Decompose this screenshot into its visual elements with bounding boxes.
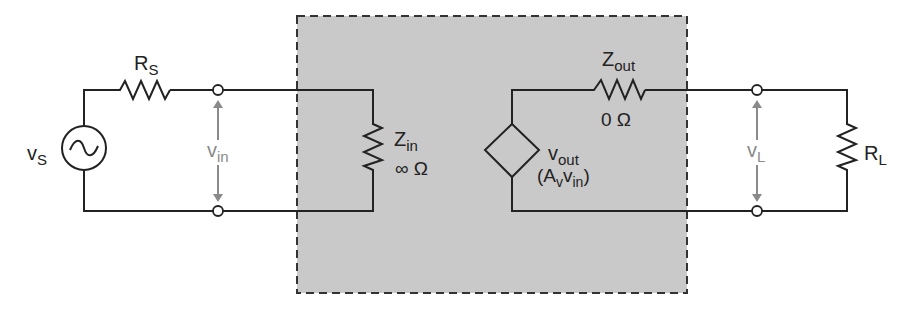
input-terminal-top bbox=[213, 85, 223, 95]
source-resistor-icon bbox=[115, 81, 170, 99]
output-terminal-bottom bbox=[752, 206, 762, 216]
source-resistor-label: RS bbox=[134, 52, 158, 78]
input-voltage-label: vin bbox=[207, 139, 229, 165]
output-impedance-value: 0 Ω bbox=[601, 109, 631, 130]
output-terminal-top bbox=[752, 85, 762, 95]
load-resistor-icon bbox=[838, 120, 856, 172]
load-voltage-label: vL bbox=[747, 139, 765, 165]
input-impedance-value: ∞ Ω bbox=[395, 158, 428, 179]
input-terminal-bottom bbox=[213, 206, 223, 216]
source-loop-wires bbox=[84, 90, 297, 211]
source-label: vS bbox=[27, 142, 47, 168]
ac-source-icon bbox=[62, 126, 106, 170]
load-resistor-label: RL bbox=[864, 142, 887, 168]
circuit-diagram: vS RS vin Zin ∞ Ω vout (Avvin) Zout 0 Ω … bbox=[0, 0, 910, 312]
